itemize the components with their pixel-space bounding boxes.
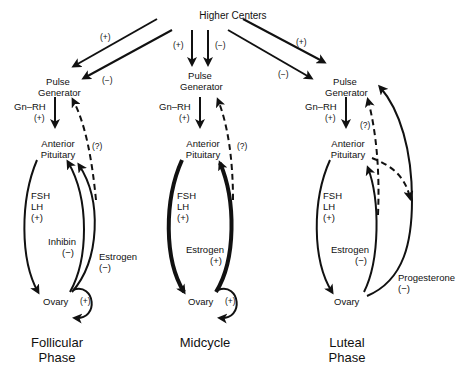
luteal-question: (?)	[360, 120, 370, 131]
title-line1: Follicular	[22, 335, 92, 350]
pulse-line1: Pulse	[38, 76, 78, 87]
follicular-top-plus: (+)	[100, 32, 111, 43]
arrow-higher-to-luteal-plus	[243, 19, 324, 62]
progesterone-sign: (−)	[398, 283, 455, 294]
follicular-title: Follicular Phase	[22, 335, 92, 365]
follicular-gnrh: Gn–RH	[14, 101, 46, 112]
midcycle-estrogen: Estrogen (+)	[185, 244, 225, 266]
follicular-ovary: Ovary	[43, 296, 68, 307]
pulse-line1: Pulse	[325, 76, 365, 87]
estrogen-label: Estrogen	[330, 244, 370, 255]
fsh-lh-sign: (+)	[177, 212, 196, 223]
follicular-pulse-generator: Pulse Generator	[38, 76, 78, 98]
luteal-pulse-generator: Pulse Generator	[325, 76, 365, 98]
fsh-lh-sign: (+)	[323, 212, 342, 223]
midcycle-ovary-loop-sign: (+)	[225, 296, 236, 307]
lh-label: LH	[177, 201, 196, 212]
title-line1: Midcycle	[170, 335, 240, 350]
midcycle-top-minus: (−)	[215, 40, 226, 51]
arrow-fsh-lh-midcycle	[169, 160, 184, 292]
luteal-progesterone: Progesterone (−)	[398, 272, 455, 294]
midcycle-top-plus: (+)	[173, 40, 184, 51]
midcycle-question: (?)	[237, 141, 247, 152]
estrogen-label: Estrogen	[185, 244, 225, 255]
title-line2: Phase	[317, 350, 377, 365]
luteal-top-plus: (+)	[296, 37, 307, 48]
pituitary-line1: Anterior	[38, 138, 78, 149]
estrogen-sign: (+)	[185, 255, 225, 266]
progesterone-label: Progesterone	[398, 272, 455, 283]
midcycle-fsh-lh: FSH LH (+)	[177, 190, 196, 223]
luteal-gnrh-sign: (+)	[325, 113, 336, 124]
pulse-line2: Generator	[180, 81, 220, 92]
pituitary-line1: Anterior	[183, 138, 223, 149]
estrogen-sign: (−)	[99, 262, 137, 273]
follicular-gnrh-sign: (+)	[34, 113, 45, 124]
follicular-fsh-lh: FSH LH (+)	[31, 190, 50, 223]
inhibin-label: Inhibin	[47, 236, 77, 247]
arrow-higher-to-follicular-plus	[74, 19, 157, 66]
luteal-pituitary: Anterior Pituitary	[328, 138, 368, 160]
midcycle-gnrh-sign: (+)	[179, 113, 190, 124]
midcycle-title: Midcycle	[170, 335, 240, 350]
follicular-top-minus: (−)	[102, 75, 113, 86]
midcycle-ovary: Ovary	[188, 296, 213, 307]
pulse-line2: Generator	[325, 87, 365, 98]
fsh-lh-sign: (+)	[31, 212, 50, 223]
luteal-estrogen: Estrogen (−)	[330, 244, 370, 266]
follicular-question: (?)	[92, 141, 102, 152]
fsh-label: FSH	[31, 190, 50, 201]
pulse-line1: Pulse	[180, 70, 220, 81]
lh-label: LH	[31, 201, 50, 212]
title-line1: Luteal	[317, 335, 377, 350]
pituitary-line1: Anterior	[328, 138, 368, 149]
luteal-title: Luteal Phase	[317, 335, 377, 365]
pulse-line2: Generator	[38, 87, 78, 98]
estrogen-label: Estrogen	[99, 251, 137, 262]
arrow-fsh-lh-luteal	[317, 160, 332, 292]
midcycle-gnrh: Gn–RH	[159, 101, 191, 112]
luteal-fsh-lh: FSH LH (+)	[323, 190, 342, 223]
pituitary-line2: Pituitary	[38, 149, 78, 160]
fsh-label: FSH	[323, 190, 342, 201]
midcycle-pituitary: Anterior Pituitary	[183, 138, 223, 160]
inhibin-sign: (−)	[47, 247, 77, 258]
follicular-inhibin: Inhibin (−)	[47, 236, 77, 258]
estrogen-sign: (−)	[330, 255, 370, 266]
pituitary-line2: Pituitary	[183, 149, 223, 160]
follicular-estrogen: Estrogen (−)	[99, 251, 137, 273]
diagram-arrows	[0, 0, 465, 372]
pituitary-line2: Pituitary	[328, 149, 368, 160]
luteal-ovary: Ovary	[334, 296, 359, 307]
arrow-estrogen-midcycle	[216, 163, 232, 292]
follicular-pituitary: Anterior Pituitary	[38, 138, 78, 160]
luteal-gnrh: Gn–RH	[305, 101, 337, 112]
luteal-top-minus: (−)	[278, 69, 289, 80]
arrow-inhibin-follicular	[68, 162, 84, 292]
arrow-fsh-lh-follicular	[24, 160, 38, 292]
fsh-label: FSH	[177, 190, 196, 201]
arrow-estrogen-luteal	[364, 168, 377, 292]
title-line2: Phase	[22, 350, 92, 365]
follicular-ovary-loop-sign: (+)	[80, 296, 91, 307]
midcycle-pulse-generator: Pulse Generator	[180, 70, 220, 92]
lh-label: LH	[323, 201, 342, 212]
higher-centers-node: Higher Centers	[163, 10, 303, 21]
